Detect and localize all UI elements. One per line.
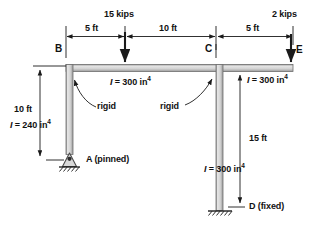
column-CD [216,65,223,211]
rigid-leader-right [185,79,212,105]
inertia-label-beam-BE: I = 300 in4 [110,78,151,87]
dimension-label-10ft-vertical: 10 ft [14,105,32,114]
rigid-leader-left [75,80,97,107]
joint-label-B: B [55,44,62,54]
dimension-10ft-vertical [33,66,66,160]
column-AB [66,65,73,155]
joint-label-C: C [205,44,212,54]
joint-label-E: E [296,45,303,55]
dimension-label-5ft-left: 5 ft [85,24,98,33]
annotation-rigid-left: rigid [97,102,116,111]
load-label-15kips: 15 kips [104,10,134,19]
beam-BE [66,65,293,72]
dimension-label-10ft: 10 ft [159,24,177,33]
inertia-label-column-AB: I = 240 in4 [10,121,51,130]
support-label-A: A (pinned) [86,155,129,164]
inertia-label-column-CE: I = 300 in4 [247,76,288,85]
load-label-2kips: 2 kips [272,10,297,19]
dimension-label-15ft-vertical: 15 ft [249,134,267,143]
support-A-pinned [59,153,80,172]
dimension-label-5ft-right: 5 ft [246,24,259,33]
inertia-label-column-CD: I = 300 in4 [204,165,245,174]
frame-diagram [0,0,322,231]
annotation-rigid-right: rigid [160,102,179,111]
dimension-15ft-vertical [228,75,245,207]
support-D-fixed [208,211,232,216]
support-label-D: D (fixed) [249,202,284,211]
